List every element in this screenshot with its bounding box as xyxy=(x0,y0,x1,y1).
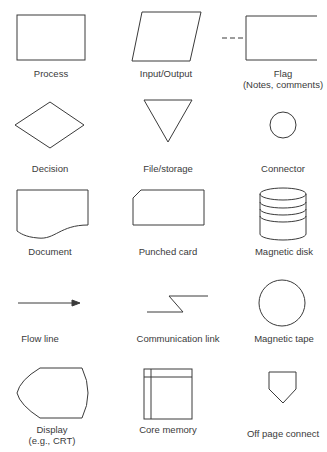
label-core-memory: Core memory xyxy=(139,424,197,435)
label-punched-card: Punched card xyxy=(139,246,198,257)
label-decision: Decision xyxy=(32,163,68,174)
magnetic-tape-symbol xyxy=(259,280,305,326)
communication-link-symbol xyxy=(147,296,208,312)
label-process: Process xyxy=(34,68,68,79)
flag-symbol xyxy=(222,16,317,60)
punched-card-symbol xyxy=(133,190,204,225)
process-symbol xyxy=(17,15,85,60)
display-symbol xyxy=(17,368,88,418)
decision-symbol xyxy=(15,102,84,148)
label-magnetic-tape: Magnetic tape xyxy=(254,333,314,344)
label-off-page-connect: Off page connect xyxy=(247,428,319,439)
input-output-symbol xyxy=(132,12,201,61)
file-storage-symbol xyxy=(144,100,192,142)
label-document: Document xyxy=(28,246,71,257)
connector-symbol xyxy=(270,112,296,138)
label-file-storage: File/storage xyxy=(143,163,193,174)
magnetic-disk-symbol xyxy=(260,188,306,240)
document-symbol xyxy=(17,190,88,238)
label-flag-sub: (Notes, comments) xyxy=(243,79,323,90)
label-input-output: Input/Output xyxy=(140,68,192,79)
off-page-connector-symbol xyxy=(269,372,296,403)
core-memory-symbol xyxy=(144,369,192,419)
label-flow-line: Flow line xyxy=(21,333,59,344)
label-flag: Flag xyxy=(274,68,292,79)
label-communication-link: Communication link xyxy=(137,333,220,344)
label-display-sub: (e.g., CRT) xyxy=(29,435,76,446)
flow-line-symbol xyxy=(18,300,80,306)
label-connector: Connector xyxy=(261,163,305,174)
label-magnetic-disk: Magnetic disk xyxy=(255,246,313,257)
label-display: Display xyxy=(36,424,67,435)
